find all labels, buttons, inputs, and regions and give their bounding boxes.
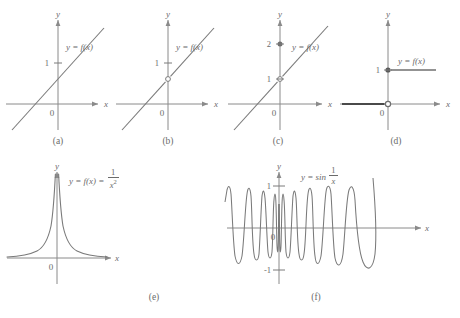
panel-f: 1 -1 0 x y y = sin 1x — [225, 162, 460, 288]
open-circle-at-origin — [385, 101, 390, 106]
x-axis-label: x — [114, 253, 119, 263]
y-axis-label: y — [55, 9, 60, 19]
curve-label-a: y = f(x) — [65, 42, 93, 52]
y-axis-label: y — [276, 161, 281, 171]
caption-b: (b) — [148, 136, 188, 146]
curve-label-e: y = f(x) = 1x2 — [69, 168, 120, 189]
x-axis-label: x — [213, 99, 218, 109]
tick-label-1: 1 — [155, 58, 159, 68]
curve-label-e-denominator-group: x2 — [108, 179, 119, 189]
tick-label-1: 1 — [267, 74, 271, 84]
x-axis-arrow-icon — [202, 102, 208, 107]
line-curve-b-right — [171, 28, 215, 76]
line-curve-b-left — [122, 82, 166, 130]
figure-root: 1 0 x y y = f(x) (a) 1 0 x y y = f(x) — [0, 0, 460, 318]
curve-label-e-exponent: 2 — [113, 178, 116, 185]
open-circle-hole — [166, 77, 171, 82]
curve-label-f-numerator: 1 — [329, 166, 337, 175]
panel-d: 1 0 x y y = f(x) — [336, 6, 460, 132]
curve-f-right-branch — [279, 178, 376, 268]
curve-label-e-fraction: 1x2 — [108, 168, 119, 189]
line-curve-c-left — [234, 82, 278, 130]
panel-e: 0 x y y = f(x) = 1x2 — [5, 162, 240, 288]
origin-label: 0 — [380, 108, 385, 118]
y-axis-arrow-icon — [56, 20, 61, 26]
axes-f — [227, 172, 421, 284]
tick-label-neg1: -1 — [264, 265, 271, 275]
x-axis-label: x — [424, 223, 429, 233]
y-axis-arrow-icon — [277, 172, 282, 178]
y-axis-label: y — [54, 161, 59, 171]
curve-label-f-prefix: y = sin — [301, 172, 328, 182]
tick-label-2: 2 — [267, 39, 271, 49]
curve-label-e-prefix: y = f(x) = — [69, 176, 107, 186]
curve-e-left-branch — [7, 174, 55, 257]
curve-label-f: y = sin 1x — [301, 166, 339, 185]
curve-label-c: y = f(x) — [291, 42, 319, 52]
curve-f-left-branch — [225, 187, 279, 264]
curve-label-f-fraction: 1x — [329, 166, 337, 185]
curve-label-e-numerator: 1 — [108, 168, 119, 177]
y-axis-arrow-icon — [278, 20, 283, 26]
caption-d: (d) — [376, 136, 416, 146]
x-axis-label: x — [445, 99, 450, 109]
x-axis-arrow-icon — [316, 102, 322, 107]
caption-a: (a) — [38, 136, 78, 146]
y-axis-arrow-icon — [386, 20, 391, 26]
y-axis-label: y — [165, 9, 170, 19]
panel-b: 1 0 x y y = f(x) — [110, 6, 225, 132]
origin-label: 0 — [272, 108, 277, 118]
x-axis-arrow-icon — [434, 102, 440, 107]
origin-label: 0 — [160, 108, 165, 118]
tick-label-1: 1 — [45, 58, 49, 68]
curve-label-f-denominator: x — [329, 177, 337, 186]
tick-label-1: 1 — [376, 65, 380, 75]
tick-label-1: 1 — [267, 181, 271, 191]
y-axis-label: y — [385, 9, 390, 19]
x-axis-arrow-icon — [105, 256, 111, 261]
x-axis-arrow-icon — [92, 102, 98, 107]
origin-label: 0 — [50, 108, 55, 118]
origin-label: 0 — [271, 232, 276, 242]
panel-a: 1 0 x y y = f(x) — [0, 6, 115, 132]
caption-e: (e) — [134, 292, 174, 302]
x-axis-label: x — [103, 99, 108, 109]
y-axis-arrow-icon — [166, 20, 171, 26]
caption-c: (c) — [258, 136, 298, 146]
x-axis-arrow-icon — [415, 226, 421, 231]
curve-label-b: y = f(x) — [175, 42, 203, 52]
x-axis-label: x — [327, 99, 332, 109]
origin-label: 0 — [49, 262, 54, 272]
curve-label-d: y = f(x) — [397, 56, 425, 66]
panel-c: 2 1 0 x y y = f(x) — [222, 6, 340, 132]
caption-f: (f) — [296, 292, 336, 302]
axes-d — [340, 20, 440, 130]
y-axis-label: y — [277, 9, 282, 19]
